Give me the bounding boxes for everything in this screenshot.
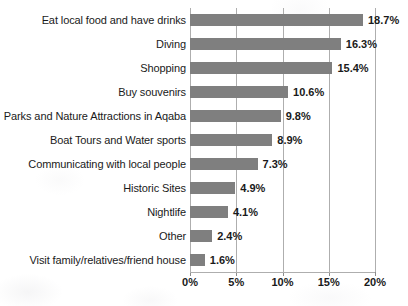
category-label: Eat local food and have drinks bbox=[42, 8, 186, 32]
bar-value-label: 4.9% bbox=[240, 176, 265, 200]
category-label: Shopping bbox=[140, 56, 186, 80]
bar bbox=[190, 206, 228, 218]
bar bbox=[190, 14, 363, 26]
category-label: Other bbox=[159, 224, 186, 248]
category-label: Historic Sites bbox=[123, 176, 186, 200]
bar-row: Shopping15.4% bbox=[0, 56, 408, 80]
category-label: Boat Tours and Water sports bbox=[50, 128, 186, 152]
x-axis-baseline bbox=[190, 272, 375, 273]
bar-value-label: 8.9% bbox=[277, 128, 302, 152]
category-label: Buy souvenirs bbox=[118, 80, 186, 104]
bar-row: Parks and Nature Attractions in Aqaba9.8… bbox=[0, 104, 408, 128]
bar bbox=[190, 254, 205, 266]
bar bbox=[190, 230, 212, 242]
bar-row: Other2.4% bbox=[0, 224, 408, 248]
bar bbox=[190, 38, 341, 50]
bar-row: Buy souvenirs10.6% bbox=[0, 80, 408, 104]
bar-value-label: 15.4% bbox=[337, 56, 368, 80]
x-tick-label: 20% bbox=[364, 276, 386, 288]
bar-row: Diving16.3% bbox=[0, 32, 408, 56]
bar-value-label: 9.8% bbox=[286, 104, 311, 128]
bar-value-label: 18.7% bbox=[368, 8, 399, 32]
bar-row: Eat local food and have drinks18.7% bbox=[0, 8, 408, 32]
x-tick-label: 0% bbox=[182, 276, 198, 288]
category-label: Communicating with local people bbox=[28, 152, 186, 176]
bar bbox=[190, 134, 272, 146]
category-label: Parks and Nature Attractions in Aqaba bbox=[4, 104, 186, 128]
category-label: Visit family/relatives/friend house bbox=[30, 248, 186, 272]
bar-row: Communicating with local people7.3% bbox=[0, 152, 408, 176]
bar bbox=[190, 86, 288, 98]
bar-value-label: 1.6% bbox=[210, 248, 235, 272]
bar bbox=[190, 62, 332, 74]
bar bbox=[190, 158, 258, 170]
bar bbox=[190, 110, 281, 122]
bar bbox=[190, 182, 235, 194]
bar-chart: Eat local food and have drinks18.7%Divin… bbox=[0, 0, 408, 306]
x-tick-label: 10% bbox=[271, 276, 293, 288]
bar-value-label: 4.1% bbox=[233, 200, 258, 224]
x-tick-label: 15% bbox=[318, 276, 340, 288]
bar-row: Boat Tours and Water sports8.9% bbox=[0, 128, 408, 152]
bar-row: Historic Sites4.9% bbox=[0, 176, 408, 200]
category-label: Diving bbox=[156, 32, 186, 56]
category-label: Nightlife bbox=[147, 200, 186, 224]
bar-value-label: 10.6% bbox=[293, 80, 324, 104]
bar-row: Visit family/relatives/friend house1.6% bbox=[0, 248, 408, 272]
bar-row: Nightlife4.1% bbox=[0, 200, 408, 224]
x-tick-label: 5% bbox=[228, 276, 244, 288]
bar-value-label: 7.3% bbox=[263, 152, 288, 176]
bar-value-label: 16.3% bbox=[346, 32, 377, 56]
bar-value-label: 2.4% bbox=[217, 224, 242, 248]
